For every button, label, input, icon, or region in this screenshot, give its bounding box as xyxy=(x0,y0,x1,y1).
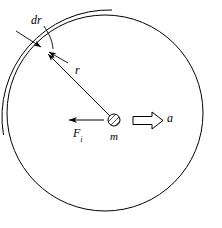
dr-upper-arrow xyxy=(16,31,41,47)
dr-leader-line xyxy=(44,26,53,49)
shell-thickness-label: dr xyxy=(31,14,42,26)
internal-force-subscript: i xyxy=(80,135,82,144)
internal-force-label: Fi xyxy=(73,127,83,142)
radius-label: r xyxy=(75,64,80,76)
physics-diagram-figure: dr r m a Fi xyxy=(0,0,222,228)
acceleration-label: a xyxy=(167,112,173,124)
outer-shell-arc xyxy=(2,10,112,135)
acceleration-block-arrow xyxy=(133,112,163,129)
mass-label: m xyxy=(110,131,118,142)
diagram-canvas xyxy=(0,0,222,228)
